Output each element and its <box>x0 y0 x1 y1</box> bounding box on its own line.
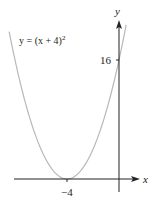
equation-label: y = (x + 4)2 <box>19 34 66 47</box>
y-tick-label-16: 16 <box>100 54 112 66</box>
x-axis-label: x <box>142 173 148 185</box>
equation-exponent: 2 <box>62 34 66 42</box>
parabola-chart: y x 16 −4 y = (x + 4)2 <box>0 0 158 201</box>
equation-main: y = (x + 4) <box>19 35 62 47</box>
x-tick-label-neg4: −4 <box>61 186 73 198</box>
y-axis-label: y <box>114 5 120 17</box>
parabola-curve <box>9 25 126 179</box>
